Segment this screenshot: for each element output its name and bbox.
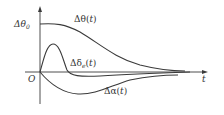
y-axis-arrow-icon [38, 6, 42, 12]
t-axis-label: t [202, 74, 206, 84]
delta-theta-0-label: Δθ0 [13, 19, 30, 30]
delta-delta-e-curve [40, 44, 190, 76]
response-diagram: Δθ0 O t Δθ(t) Δδe(t) Δα(t) [0, 0, 224, 115]
delta-theta-curve [40, 24, 185, 71]
delta-alpha-label: Δα(t) [104, 86, 127, 96]
origin-label: O [28, 74, 36, 84]
delta-theta-label: Δθ(t) [74, 14, 97, 24]
delta-delta-e-label: Δδe(t) [70, 58, 96, 69]
